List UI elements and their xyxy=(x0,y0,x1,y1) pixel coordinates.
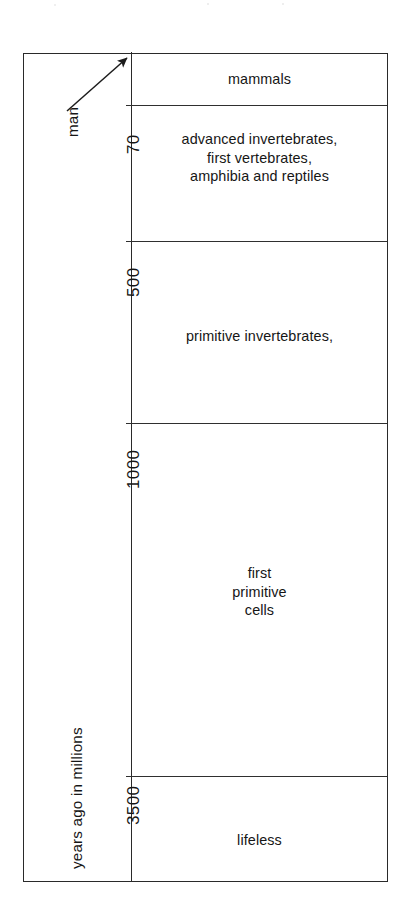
tick-mark-70 xyxy=(126,105,132,106)
tick-mark-3500 xyxy=(126,776,132,777)
geological-timeline-figure: mammals advanced invertebrates, first ve… xyxy=(0,0,412,917)
tick-label-500: 500 xyxy=(124,267,144,297)
scan-artifact-speckle xyxy=(0,0,412,12)
tick-label-1000: 1000 xyxy=(124,450,144,489)
tick-label-3500: 3500 xyxy=(124,786,144,825)
band-label-first-primitive-cells: first primitive cells xyxy=(132,564,387,620)
band-separator-500 xyxy=(131,241,387,242)
band-label-lifeless: lifeless xyxy=(132,831,387,850)
axis-title-years-ago: years ago in millions xyxy=(68,727,85,869)
band-label-primitive-invertebrates: primitive invertebrates, xyxy=(132,327,387,346)
band-separator-70 xyxy=(131,105,387,106)
tick-label-70: 70 xyxy=(124,134,144,154)
band-label-mammals: mammals xyxy=(132,70,387,89)
band-separator-3500 xyxy=(131,776,387,777)
tick-mark-500 xyxy=(126,241,132,242)
tick-mark-1000 xyxy=(126,423,132,424)
chart-frame: mammals advanced invertebrates, first ve… xyxy=(23,53,388,882)
band-separator-1000 xyxy=(131,423,387,424)
band-label-advanced-invertebrates: advanced invertebrates, first vertebrate… xyxy=(132,130,387,186)
annotation-label-man: man xyxy=(64,107,81,137)
